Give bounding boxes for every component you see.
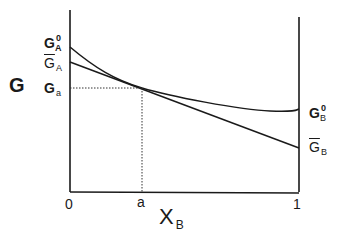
label-GBbar-base: G: [309, 139, 320, 155]
label-GAbar-sub: A: [56, 63, 62, 73]
x-tick-a: a: [137, 195, 145, 209]
label-GBbar-sub: B: [321, 147, 327, 157]
label-GA0-sup: 0: [56, 33, 61, 43]
x-tick-0: 0: [65, 197, 73, 211]
label-GB0-sup: 0: [321, 103, 326, 113]
label-GB0-sub: B: [320, 113, 326, 123]
label-GB0: G0B: [309, 106, 331, 120]
label-GBbar: GB: [309, 140, 326, 154]
label-Ga-sub: a: [56, 88, 61, 98]
label-GB0-base: G: [309, 105, 320, 121]
x-axis-label: XB: [159, 206, 182, 228]
x-axis-label-sub: B: [176, 218, 184, 232]
label-GA0: G0A: [44, 36, 66, 50]
label-GAbar-base: G: [44, 55, 55, 71]
tangent-line: [70, 62, 299, 148]
label-Ga: Ga: [44, 81, 60, 95]
bottom-axis: [70, 192, 299, 193]
label-GAbar: GA: [44, 56, 61, 70]
gibbs-curve: [70, 47, 299, 111]
label-GA0-sub: A: [55, 43, 62, 53]
x-tick-1: 1: [293, 197, 301, 211]
x-axis-label-main: X: [159, 204, 174, 229]
label-GA0-base: G: [44, 35, 55, 51]
label-Ga-base: G: [44, 80, 55, 96]
y-axis-label: G: [9, 75, 25, 95]
